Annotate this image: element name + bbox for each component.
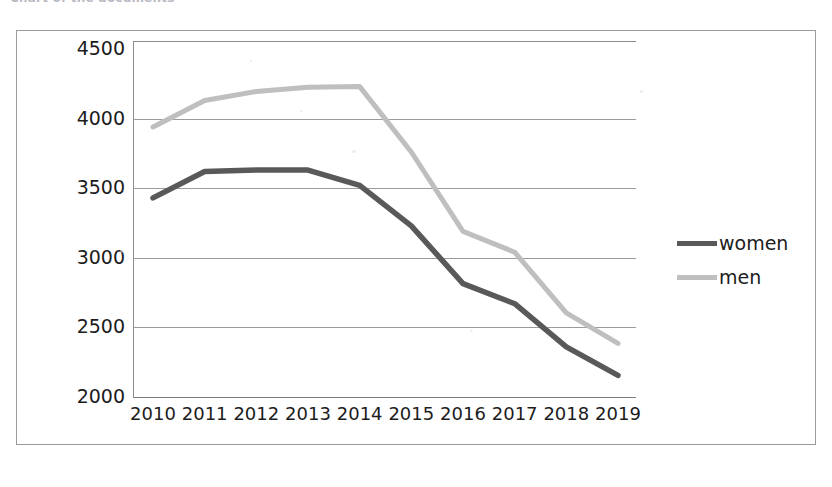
x-axis-labels: 2010201120122013201420152016201720182019 (133, 405, 636, 435)
legend-label-women: women (719, 234, 788, 253)
caption-text: Chart of the documents (10, 0, 174, 5)
scan-speckle (352, 150, 356, 153)
x-axis-tick-2019: 2019 (588, 405, 648, 423)
scan-speckle (640, 90, 643, 93)
scan-speckle (300, 110, 303, 112)
chart-legend: womenmen (677, 226, 807, 294)
y-axis-tick-4500: 4500 (35, 39, 125, 58)
y-axis-tick-4000: 4000 (35, 109, 125, 128)
top-caption: Chart of the documents (0, 0, 832, 13)
figure-frame: 450040003500300025002000 201020112012201… (16, 30, 816, 445)
y-axis-tick-3000: 3000 (35, 248, 125, 267)
legend-item-men[interactable]: men (677, 260, 807, 294)
y-axis-tick-3500: 3500 (35, 178, 125, 197)
series-line-men (153, 87, 618, 344)
y-axis-tick-2500: 2500 (35, 317, 125, 336)
plot-area (133, 41, 636, 398)
scan-speckle (250, 60, 252, 62)
legend-swatch-women (677, 241, 717, 246)
legend-label-men: men (719, 268, 761, 287)
series-line-women (153, 170, 618, 375)
legend-swatch-men (677, 275, 717, 280)
scan-speckle (470, 330, 473, 332)
y-axis-tick-2000: 2000 (35, 387, 125, 406)
scan-speckle (120, 250, 123, 253)
legend-item-women[interactable]: women (677, 226, 807, 260)
y-axis-labels: 450040003500300025002000 (25, 41, 125, 398)
series-layer (133, 41, 636, 398)
